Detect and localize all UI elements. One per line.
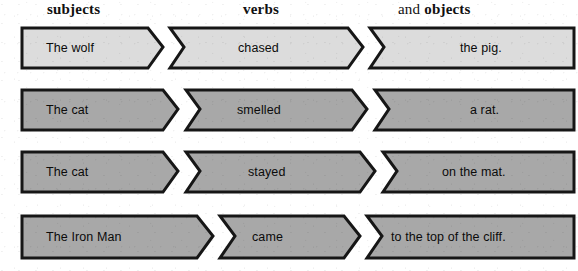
column-header-objects-word: objects	[424, 1, 470, 17]
sentence-row-3: The cat stayed on the mat.	[0, 148, 578, 198]
row-1-verb-label: chased	[238, 41, 279, 55]
row-3-object-label: on the mat.	[442, 165, 506, 179]
sentence-row-1: The wolf chased the pig.	[0, 24, 578, 74]
sentence-row-4: The Iron Man came to the top of the clif…	[0, 212, 578, 264]
sentence-row-2: The cat smelled a rat.	[0, 86, 578, 136]
column-header-objects: and objects	[398, 1, 471, 18]
row-4-verb-label: came	[252, 230, 283, 244]
row-3-subject-label: The cat	[46, 165, 88, 179]
column-header-subjects: subjects	[47, 1, 100, 18]
sentence-strips-diagram: The wolf chased the pig. The cat smelled…	[0, 24, 578, 271]
row-2-verb-label: smelled	[237, 103, 281, 117]
column-headers: subjects verbs and objects	[0, 0, 578, 24]
row-4-verb-piece[interactable]	[220, 216, 360, 258]
row-4-object-label: to the top of the cliff.	[391, 230, 506, 244]
row-4-subject-label: The Iron Man	[46, 230, 122, 244]
column-header-objects-prefix: and	[398, 1, 424, 17]
row-3-verb-label: stayed	[248, 165, 285, 179]
row-1-subject-label: The wolf	[46, 41, 94, 55]
row-2-subject-label: The cat	[46, 103, 88, 117]
row-2-object-label: a rat.	[470, 103, 499, 117]
row-1-object-label: the pig.	[460, 41, 502, 55]
column-header-verbs: verbs	[243, 1, 279, 18]
